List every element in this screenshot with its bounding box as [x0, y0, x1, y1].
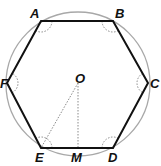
- label-o: O: [75, 71, 85, 86]
- angle-mark-c: [137, 73, 143, 92]
- hexagon-diagram: ABCDEFOM: [0, 0, 161, 166]
- figure-svg: ABCDEFOM: [0, 0, 161, 166]
- label-m: M: [71, 150, 83, 165]
- label-e: E: [35, 150, 44, 165]
- dotted-segments: [41, 83, 78, 148]
- angle-mark-f: [12, 73, 18, 92]
- label-c: C: [150, 76, 160, 91]
- label-b: B: [115, 6, 124, 21]
- label-d: D: [108, 150, 118, 165]
- vertex-labels: ABCDEFOM: [0, 6, 160, 165]
- segment-oe: [41, 83, 78, 148]
- label-a: A: [29, 6, 39, 21]
- label-f: F: [0, 76, 9, 91]
